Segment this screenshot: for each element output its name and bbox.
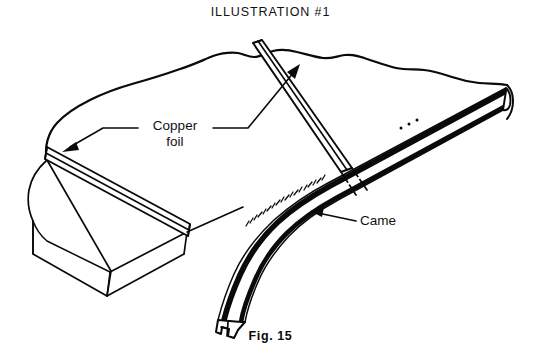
label-copper-foil-line2: foil bbox=[143, 134, 207, 150]
glass-panel-lower-left-right-edge bbox=[110, 232, 187, 272]
label-copper-foil: Copper foil bbox=[143, 118, 207, 150]
came-strip-outer-rail bbox=[224, 91, 506, 320]
line-art-drawing bbox=[0, 0, 541, 353]
illustration-title: ILLUSTRATION #1 bbox=[0, 5, 541, 19]
glass-panel-lower-left-right-edge-lower bbox=[107, 254, 184, 296]
leader-line-came bbox=[318, 213, 356, 221]
came-strip-channel bbox=[233, 99, 505, 321]
label-came: Came bbox=[360, 213, 396, 228]
came-dot-marks bbox=[400, 119, 419, 130]
label-copper-foil-line1: Copper bbox=[143, 118, 207, 134]
illustration-figure: ILLUSTRATION #1 bbox=[0, 0, 541, 353]
glass-panel-seam-lower bbox=[187, 207, 243, 232]
figure-caption: Fig. 15 bbox=[0, 329, 541, 343]
